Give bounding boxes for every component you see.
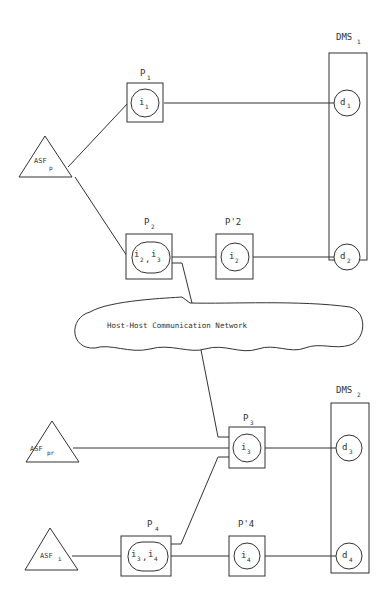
- d3-label: d: [342, 442, 347, 452]
- p2prime-label: P'2: [225, 217, 241, 227]
- asf-p: ASF p: [19, 136, 72, 177]
- p2prime-item: i: [229, 251, 234, 261]
- p4prime-label: P'4: [238, 519, 254, 529]
- d4-sub: 4: [349, 556, 353, 563]
- p2prime-item-sub: 2: [235, 257, 239, 264]
- dms2-d4: d 4: [336, 543, 362, 569]
- asf-pr: ASF pr: [26, 421, 79, 462]
- distributed-system-diagram: DMS 1 DMS 2: [0, 0, 389, 609]
- p2-label: P: [144, 217, 150, 227]
- process-p3: P 3 i 3: [229, 413, 265, 468]
- p4-item-1-sub: 3: [137, 555, 141, 562]
- d1-label: d: [340, 97, 345, 107]
- network-label: Host-Host Communication Network: [107, 321, 247, 330]
- p3-item-sub: 3: [247, 448, 251, 455]
- p2-item-1: i: [134, 249, 139, 259]
- process-p4: P 4 i 3 , i 4: [121, 519, 171, 576]
- p3-label: P: [243, 413, 249, 423]
- asf-i-sub: i: [58, 555, 62, 562]
- dms2-label: DMS: [336, 385, 352, 395]
- dms1-group: DMS 1: [329, 32, 367, 260]
- asf-p-label: ASF: [34, 157, 47, 165]
- p2-item-2: i: [151, 249, 156, 259]
- p4-item-2: i: [148, 549, 153, 559]
- p1-item: i: [139, 97, 144, 107]
- process-p4prime: P'4 i 4: [229, 519, 265, 576]
- dms1-box: [329, 53, 367, 260]
- p4prime-item-sub: 4: [247, 556, 251, 563]
- d2-sub: 2: [347, 257, 351, 264]
- process-p1: P 1 i 1: [127, 68, 163, 122]
- process-p2prime: P'2 i 2: [216, 217, 253, 279]
- dms2-d3: d 3: [336, 435, 362, 461]
- asf-pr-sub: pr: [47, 449, 55, 457]
- asf-i-triangle: [25, 528, 78, 570]
- p4-item-1: i: [131, 549, 136, 559]
- p1-label: P: [140, 68, 146, 78]
- dms1-d1: d 1: [334, 90, 360, 116]
- d3-sub: 3: [349, 448, 353, 455]
- dms1-label: DMS: [336, 32, 352, 42]
- p1-label-sub: 1: [147, 74, 151, 81]
- edge-asfp-p2: [75, 177, 127, 256]
- asf-i: ASF i: [25, 528, 78, 570]
- p4-item-2-sub: 4: [154, 555, 158, 562]
- p4-label-sub: 4: [155, 525, 159, 532]
- p4prime-item: i: [241, 550, 246, 560]
- network-cloud: Host-Host Communication Network: [75, 297, 363, 351]
- edge-asfp-p1: [68, 103, 128, 167]
- dms2-label-sub: 2: [357, 391, 361, 398]
- dms1-label-sub: 1: [357, 38, 361, 45]
- p1-item-sub: 1: [145, 103, 149, 110]
- p4-item-comma: ,: [142, 552, 147, 562]
- d1-sub: 1: [347, 102, 351, 109]
- asf-pr-label: ASF: [30, 445, 43, 453]
- dms1-d2: d 2: [334, 244, 360, 270]
- asf-p-sub: p: [49, 164, 53, 172]
- edge-p4-p3: [171, 457, 230, 544]
- p2-item-comma: ,: [145, 254, 150, 264]
- p2-item-1-sub: 2: [140, 256, 144, 263]
- p2-label-sub: 2: [151, 223, 155, 230]
- p3-label-sub: 3: [250, 419, 254, 426]
- p2-item-2-sub: 3: [157, 256, 161, 263]
- d2-label: d: [340, 251, 345, 261]
- d4-label: d: [342, 550, 347, 560]
- asf-i-label: ASF: [40, 552, 53, 560]
- p4-label: P: [147, 519, 153, 529]
- p3-item: i: [241, 442, 246, 452]
- edge-network-p3: [201, 350, 230, 437]
- process-p2: P 2 i 2 , i 3: [126, 217, 172, 279]
